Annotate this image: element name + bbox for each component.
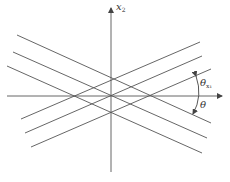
diagram-canvas <box>0 0 230 182</box>
ascending-line <box>25 56 202 133</box>
x2-axis-label: x2 <box>116 2 125 13</box>
ascending-line <box>21 42 200 119</box>
ascending-lines <box>21 42 211 147</box>
descending-lines <box>7 35 211 153</box>
angle-arc <box>193 76 199 114</box>
angle-upper-label: θx₁ <box>200 78 212 89</box>
ascending-line <box>31 69 211 147</box>
descending-line <box>7 66 202 153</box>
diagram-figure: x2 θx₁ θ <box>0 0 230 182</box>
angle-lower-label: θ <box>200 100 206 110</box>
